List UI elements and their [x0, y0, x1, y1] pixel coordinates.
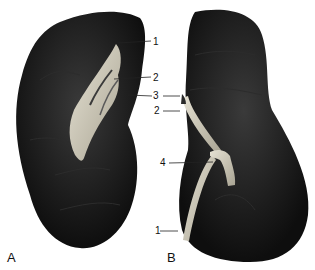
label-b-1: 1: [155, 226, 161, 236]
panel-label-b: B: [167, 251, 176, 264]
label-b-4: 4: [160, 158, 166, 168]
panel-label-a: A: [7, 251, 16, 264]
organ-a: [16, 12, 145, 248]
label-a-3: 3: [153, 91, 159, 101]
organ-b: [179, 10, 308, 262]
anatomical-figure: 1 2 3 2 4 1 A B: [0, 0, 315, 270]
label-b-2: 2: [154, 106, 160, 116]
label-a-2: 2: [153, 73, 159, 83]
label-a-1: 1: [153, 37, 159, 47]
